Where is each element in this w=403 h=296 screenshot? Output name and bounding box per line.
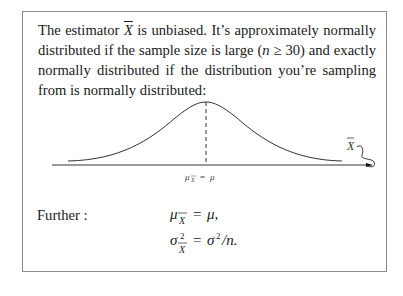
svg-text:2: 2 (216, 231, 221, 241)
svg-text:2: 2 (180, 231, 185, 241)
svg-text:/n.: /n. (221, 232, 237, 248)
svg-text:σ: σ (207, 232, 215, 248)
svg-text:σ: σ (170, 232, 178, 248)
svg-text:μ: μ (169, 206, 178, 222)
svg-text:μ,: μ, (206, 206, 218, 222)
svg-text:X: X (178, 215, 186, 226)
svg-text:=: = (193, 206, 201, 222)
svg-text:=: = (193, 232, 201, 248)
further-equations: μ X = μ, σ 2 X = σ 2 /n. (0, 0, 403, 296)
svg-text:X: X (178, 244, 186, 255)
